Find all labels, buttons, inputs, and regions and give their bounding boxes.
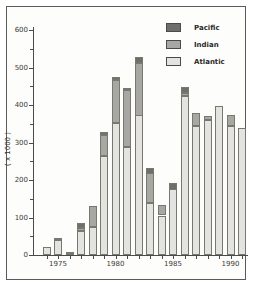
x-minor-tick (162, 256, 163, 259)
bar-segment-pacific-1981 (123, 88, 131, 90)
y-tick-label: 300 (4, 139, 28, 147)
y-axis-label: ( x 1000 ) (4, 127, 12, 171)
x-minor-tick (58, 256, 59, 259)
y-axis-line (33, 27, 34, 256)
plot-area: ( x 1000 ) PacificIndianAtlantic 0100200… (0, 0, 253, 287)
bar-segment-pacific-1979 (100, 132, 108, 135)
bar-segment-atlantic-1984 (158, 216, 166, 255)
x-minor-tick (116, 256, 117, 259)
x-tick-label: 1980 (101, 260, 131, 268)
legend-item-pacific: Pacific (166, 22, 225, 33)
x-minor-tick (139, 256, 140, 259)
x-minor-tick (104, 256, 105, 259)
x-minor-tick (93, 256, 94, 259)
legend-item-atlantic: Atlantic (166, 56, 225, 67)
x-minor-tick (47, 256, 48, 259)
bar-segment-indian-1984 (158, 205, 166, 215)
bar-segment-atlantic-1982 (135, 115, 143, 255)
bar-segment-atlantic-1981 (123, 147, 131, 255)
x-minor-tick (127, 256, 128, 259)
y-minor-tick (30, 161, 33, 162)
x-tick-label: 1990 (216, 260, 246, 268)
bar-segment-pacific-1977 (77, 223, 85, 228)
bar-segment-indian-1983 (146, 173, 154, 203)
y-major-tick (29, 30, 33, 31)
y-major-tick (29, 180, 33, 181)
bar-segment-indian-1978 (89, 206, 97, 227)
bar-segment-indian-1977 (77, 228, 85, 231)
legend: PacificIndianAtlantic (166, 22, 225, 73)
y-major-tick (29, 218, 33, 219)
x-minor-tick (208, 256, 209, 259)
bar-segment-atlantic-1985 (169, 189, 177, 255)
bar-segment-atlantic-1989 (215, 106, 223, 255)
x-minor-tick (219, 256, 220, 259)
bar-segment-indian-1976 (66, 252, 74, 254)
x-minor-tick (150, 256, 151, 259)
bar-segment-indian-1986 (181, 93, 189, 96)
x-axis-line (33, 255, 248, 256)
x-tick-label: 1975 (43, 260, 73, 268)
y-tick-label: 400 (4, 101, 28, 109)
x-minor-tick (185, 256, 186, 259)
y-tick-label: 600 (4, 26, 28, 34)
bar-segment-pacific-1983 (146, 168, 154, 174)
x-minor-tick (196, 256, 197, 259)
bar-segment-indian-1980 (112, 80, 120, 123)
y-major-tick (29, 255, 33, 256)
bar-segment-pacific-1982 (135, 57, 143, 63)
x-minor-tick (81, 256, 82, 259)
legend-label-indian: Indian (194, 41, 219, 49)
y-major-tick (29, 105, 33, 106)
bar-segment-atlantic-1980 (112, 123, 120, 255)
y-tick-label: 500 (4, 64, 28, 72)
bar-segment-pacific-1980 (112, 77, 120, 80)
bar-segment-atlantic-1975 (54, 240, 62, 255)
bar-segment-atlantic-1986 (181, 96, 189, 255)
bar-segment-atlantic-1990 (227, 126, 235, 255)
bar-segment-indian-1979 (100, 135, 108, 156)
y-minor-tick (30, 124, 33, 125)
bar-segment-pacific-1985 (169, 183, 177, 190)
bar-segment-atlantic-1983 (146, 203, 154, 255)
y-minor-tick (30, 49, 33, 50)
bar-segment-indian-1987 (192, 113, 200, 126)
y-minor-tick (30, 86, 33, 87)
x-minor-tick (231, 256, 232, 259)
bar-segment-indian-1988 (204, 116, 212, 120)
x-minor-tick (173, 256, 174, 259)
bar-segment-atlantic-1979 (100, 156, 108, 255)
y-major-tick (29, 68, 33, 69)
y-tick-label: 0 (4, 251, 28, 259)
chart-window: ( x 1000 ) PacificIndianAtlantic 0100200… (0, 0, 253, 287)
y-minor-tick (30, 236, 33, 237)
bar-segment-atlantic-1988 (204, 120, 212, 255)
bar-segment-atlantic-1974 (43, 247, 51, 255)
y-major-tick (29, 143, 33, 144)
bar-segment-atlantic-1991 (238, 128, 246, 255)
legend-label-atlantic: Atlantic (194, 58, 225, 66)
y-tick-label: 100 (4, 214, 28, 222)
legend-item-indian: Indian (166, 39, 225, 50)
legend-label-pacific: Pacific (194, 24, 220, 32)
legend-swatch-atlantic (166, 57, 181, 66)
bar-segment-atlantic-1977 (77, 231, 85, 255)
bar-segment-atlantic-1987 (192, 126, 200, 255)
x-tick-label: 1985 (158, 260, 188, 268)
bar-segment-indian-1990 (227, 115, 235, 126)
y-tick-label: 200 (4, 176, 28, 184)
bar-segment-indian-1975 (54, 238, 62, 240)
bar-segment-pacific-1986 (181, 87, 189, 93)
bar-segment-atlantic-1978 (89, 227, 97, 255)
x-minor-tick (70, 256, 71, 259)
bar-segment-indian-1982 (135, 63, 143, 116)
y-minor-tick (30, 199, 33, 200)
legend-swatch-pacific (166, 23, 181, 32)
x-minor-tick (242, 256, 243, 259)
bar-segment-indian-1981 (123, 90, 131, 147)
legend-swatch-indian (166, 40, 181, 49)
